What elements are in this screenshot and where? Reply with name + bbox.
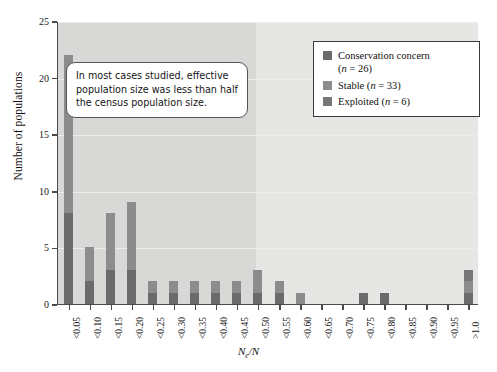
- y-tick-mark: [52, 304, 57, 306]
- bar: [127, 202, 136, 304]
- x-tick-label: <0.35: [198, 317, 208, 339]
- bar-segment: [169, 293, 178, 304]
- x-tick-label: <0.45: [240, 317, 250, 339]
- bar-segment: [211, 293, 220, 304]
- y-tick-mark: [52, 78, 57, 80]
- y-tick-mark: [52, 191, 57, 193]
- bar-segment: [190, 281, 199, 292]
- bar-segment: [64, 213, 73, 304]
- bar-segment: [85, 247, 94, 281]
- annotation-callout: In most cases studied, effective populat…: [66, 62, 248, 118]
- bar: [232, 281, 241, 304]
- bar-segment: [464, 270, 473, 281]
- bar: [169, 281, 178, 304]
- x-tick-label: <0.20: [135, 317, 145, 339]
- legend-label: Conservation concern(n = 26): [338, 49, 471, 76]
- x-tick-mark: [279, 305, 281, 310]
- x-tick-label: <0.85: [408, 317, 418, 339]
- x-tick-label: <0.10: [93, 317, 103, 339]
- bar-segment: [190, 293, 199, 304]
- bar-segment: [275, 293, 284, 304]
- bar: [190, 281, 199, 304]
- bar-segment: [275, 281, 284, 292]
- chart-figure: 0510152025 Number of populations <0.05<0…: [0, 0, 497, 372]
- bar-segment: [296, 293, 305, 304]
- x-tick-mark: [363, 305, 365, 310]
- bar: [148, 281, 157, 304]
- bar: [85, 247, 94, 304]
- bar: [211, 281, 220, 304]
- legend: Conservation concern(n = 26)Stable (n = …: [313, 41, 480, 117]
- x-tick-label: <0.95: [450, 317, 460, 339]
- y-tick-label: 10: [25, 186, 49, 197]
- bar: [296, 293, 305, 304]
- gridline: [58, 135, 478, 136]
- bar-segment: [253, 270, 262, 293]
- x-tick-mark: [111, 305, 113, 310]
- x-tick-mark: [174, 305, 176, 310]
- legend-item: Exploited (n = 6): [323, 95, 471, 108]
- bar: [275, 281, 284, 304]
- x-tick-mark: [342, 305, 344, 310]
- x-tick-label: >1.0: [471, 322, 481, 339]
- y-tick-label: 20: [25, 73, 49, 84]
- x-tick-mark: [384, 305, 386, 310]
- bar-segment: [232, 281, 241, 292]
- bar: [380, 293, 389, 304]
- x-tick-mark: [69, 305, 71, 310]
- bar-segment: [380, 293, 389, 304]
- legend-label: Stable (n = 33): [338, 79, 471, 92]
- x-tick-label: <0.75: [366, 317, 376, 339]
- x-tick-mark: [300, 305, 302, 310]
- x-tick-label: <0.55: [282, 317, 292, 339]
- y-tick-label: 5: [25, 242, 49, 253]
- y-tick-label: 0: [25, 299, 49, 310]
- bar-segment: [359, 293, 368, 304]
- bar: [464, 270, 473, 304]
- bar-segment: [106, 213, 115, 270]
- x-tick-label: <0.40: [219, 317, 229, 339]
- x-tick-label: <0.90: [429, 317, 439, 339]
- bar-segment: [148, 293, 157, 304]
- x-tick-mark: [447, 305, 449, 310]
- bar-segment: [253, 293, 262, 304]
- y-tick-label: 15: [25, 129, 49, 140]
- legend-item: Conservation concern(n = 26): [323, 49, 471, 76]
- bar-segment: [464, 293, 473, 304]
- x-tick-mark: [321, 305, 323, 310]
- bar-segment: [106, 270, 115, 304]
- x-tick-mark: [195, 305, 197, 310]
- x-tick-label: <0.50: [261, 317, 271, 339]
- x-tick-mark: [405, 305, 407, 310]
- x-tick-mark: [216, 305, 218, 310]
- x-tick-label: <0.70: [345, 317, 355, 339]
- y-tick-mark: [52, 21, 57, 23]
- bar-segment: [127, 202, 136, 270]
- x-axis-title: Ne/N: [0, 345, 497, 360]
- x-tick-label: <0.30: [177, 317, 187, 339]
- x-tick-label: <0.60: [303, 317, 313, 339]
- bar-segment: [85, 281, 94, 304]
- x-tick-mark: [258, 305, 260, 310]
- bar-segment: [464, 281, 473, 292]
- y-tick-mark: [52, 248, 57, 250]
- x-tick-mark: [237, 305, 239, 310]
- x-tick-label: <0.05: [72, 317, 82, 339]
- y-tick-label: 25: [25, 16, 49, 27]
- y-axis-title: Number of populations: [12, 0, 24, 256]
- x-tick-mark: [426, 305, 428, 310]
- bar-segment: [169, 281, 178, 292]
- legend-item: Stable (n = 33): [323, 79, 471, 92]
- x-tick-label: <0.80: [387, 317, 397, 339]
- x-tick-mark: [132, 305, 134, 310]
- legend-swatch: [323, 81, 332, 90]
- gridline: [58, 22, 478, 23]
- bar-segment: [211, 281, 220, 292]
- legend-swatch: [323, 51, 332, 60]
- x-tick-mark: [90, 305, 92, 310]
- x-tick-label: <0.65: [324, 317, 334, 339]
- x-tick-label: <0.15: [114, 317, 124, 339]
- legend-swatch: [323, 97, 332, 106]
- x-tick-label: <0.25: [156, 317, 166, 339]
- x-tick-mark: [468, 305, 470, 310]
